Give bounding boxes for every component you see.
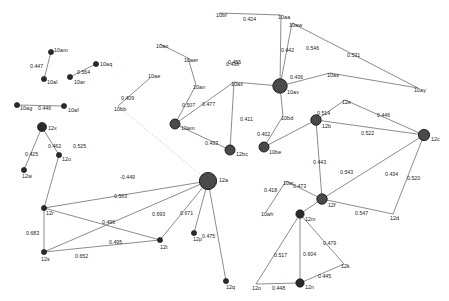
node-id-label: 10aer [184, 58, 198, 63]
edge-weight-label: 0.671 [180, 211, 193, 216]
node-id-label: 10bf [216, 13, 227, 18]
edge-weight-label: 0.473 [293, 184, 306, 189]
node-id-label: 12e [342, 100, 351, 105]
node-id-label: 12bc [236, 152, 248, 157]
edge-weight-label: 0.525 [73, 144, 86, 149]
edge-weight-label: 0.496 [102, 220, 115, 225]
edge-weight-label: 0.409 [121, 96, 134, 101]
node-id-label: 12c [431, 137, 440, 142]
graph-node [67, 74, 72, 79]
edge-weight-label: 0.475 [202, 234, 215, 239]
graph-node [296, 210, 304, 218]
graph-node [296, 279, 304, 287]
graph-edge [280, 73, 330, 86]
graph-edge [44, 52, 51, 79]
node-id-label: 12k [341, 264, 350, 269]
node-id-label: 12p [193, 237, 202, 242]
edge-weight-label: 0.446 [377, 113, 390, 118]
edge-weight-label: 0.522 [361, 131, 374, 136]
edge-weight-label: 0.531 [347, 53, 360, 58]
node-id-label: 12w [22, 174, 32, 179]
graph-canvas [0, 0, 449, 301]
graph-edge [118, 78, 150, 106]
node-id-label: 10av [287, 90, 299, 95]
graph-edge [44, 155, 59, 208]
node-id-label: 10ai [283, 181, 293, 186]
graph-node [56, 152, 61, 157]
graph-node [14, 102, 19, 107]
edge-weight-label: 0.604 [303, 252, 316, 257]
graph-edge [264, 120, 316, 147]
node-id-label: 12m [305, 217, 316, 222]
edge-weight-label: 0.477 [202, 102, 215, 107]
graph-node [41, 76, 46, 81]
graph-edge [44, 240, 160, 252]
node-id-label: 10ay [414, 88, 426, 93]
node-id-label: 10ao [156, 44, 168, 49]
edge-weight-label: 0.445 [318, 274, 331, 279]
node-id-label: 12a [219, 178, 228, 183]
node-id-label: 12o [252, 286, 261, 291]
edge-weight-label: 0.563 [114, 194, 127, 199]
graph-node [311, 115, 321, 125]
node-id-label: 10af [68, 108, 79, 113]
graph-node [225, 145, 235, 155]
graph-node [37, 122, 46, 131]
edge-weight-label: 0.418 [264, 188, 277, 193]
node-id-label: 12n [305, 285, 314, 290]
edge-weight-label: 0.520 [407, 176, 420, 181]
graph-node [418, 129, 429, 140]
graph-node [48, 49, 53, 54]
edge-weight-label: 0.411 [240, 117, 253, 122]
network-graph-figure: 0.4470.5640.4460.4250.4620.5250.6830.652… [0, 0, 449, 301]
edge-weight-label: 0.425 [25, 152, 38, 157]
graph-edge [44, 181, 208, 252]
node-id-label: 10ag [20, 106, 32, 111]
node-id-label: 10ah [261, 212, 273, 217]
graph-node [21, 167, 26, 172]
edge-weight-label: 0.424 [243, 17, 256, 22]
graph-node [223, 278, 228, 283]
graph-node [273, 79, 287, 93]
edge-weight-label: 0.546 [306, 46, 319, 51]
edge-weight-label: 0.433 [205, 141, 218, 146]
graph-node [61, 103, 66, 108]
node-id-label: 10aq [100, 62, 112, 67]
graph-node [93, 61, 98, 66]
node-id-label: 12d [390, 216, 399, 221]
node-id-label: 10bb [114, 107, 126, 112]
node-id-label: 12u [62, 157, 71, 162]
node-id-label: 10be [269, 150, 281, 155]
node-id-label: 10an [193, 85, 205, 90]
edge-weight-label: 0.446 [38, 106, 51, 111]
graph-edge [322, 135, 424, 199]
node-id-label: 10al [47, 80, 57, 85]
edge-weight-label: -0.449 [120, 175, 135, 180]
edge-weight-label: 0.447 [30, 64, 43, 69]
graph-edge [24, 127, 42, 170]
graph-node [317, 194, 327, 204]
edge-weight-label: 0.652 [75, 254, 88, 259]
edge-weight-label: 0.442 [281, 48, 294, 53]
edge-weight-label: 0.479 [323, 241, 336, 246]
graph-edge [256, 214, 300, 284]
graph-node [191, 230, 196, 235]
graph-edge [118, 106, 208, 181]
node-id-label: 10am [54, 48, 68, 53]
node-id-label: 10ae [148, 74, 160, 79]
node-id-label: 12s [41, 257, 50, 262]
edge-weight-label: 0.443 [313, 160, 326, 165]
graph-edge [219, 13, 281, 15]
graph-node [199, 172, 216, 189]
edge-weight-label: 0.436 [290, 75, 303, 80]
edge-weight-label: 0.462 [48, 144, 61, 149]
node-id-label: 10bd [281, 116, 293, 121]
node-id-label: 10ar [74, 80, 85, 85]
node-id-label: 12b [322, 124, 331, 129]
graph-edge [256, 283, 300, 284]
node-id-label: 10aa [278, 15, 290, 20]
node-id-label: 12r [46, 211, 54, 216]
edge-weight-label: 0.507 [182, 103, 195, 108]
edge-weight-label: 0.564 [77, 70, 90, 75]
graph-node [259, 142, 269, 152]
